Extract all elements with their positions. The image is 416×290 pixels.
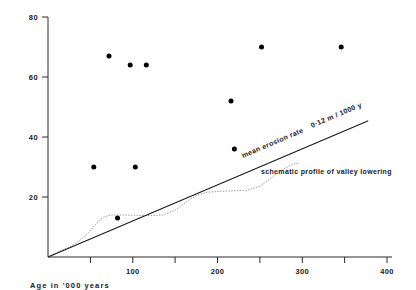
y-tick-label-40: 40 [29,133,38,142]
x-tick-label-200: 200 [211,267,225,276]
data-points-group [91,45,343,221]
valley-lowering-label: schematic profile of valley lowering [261,168,392,176]
data-point [133,165,138,170]
erosion-rate-value-label: 0·12 m / 1000 y [310,101,363,130]
y-tick-label-60: 60 [29,73,38,82]
x-tick-label-400: 400 [380,267,394,276]
data-point [232,147,237,152]
x-axis-ticks: 100 200 300 400 [90,257,393,276]
valley-lowering-profile-line [50,163,299,256]
x-tick-label-300: 300 [295,267,309,276]
data-point [115,216,120,221]
erosion-rate-chart: 80 60 40 20 100 200 300 400 Age in '000 … [0,0,416,290]
mean-erosion-rate-label: mean erosion rate [241,126,305,158]
data-point [144,63,149,68]
x-tick-label-100: 100 [126,267,140,276]
x-axis-title: Age in '000 years [30,281,110,290]
data-point [259,45,264,50]
y-axis-ticks: 80 60 40 20 [29,13,48,202]
mean-erosion-rate-line [48,121,368,257]
y-tick-label-80: 80 [29,13,38,22]
y-tick-label-20: 20 [29,193,38,202]
chart-canvas: 80 60 40 20 100 200 300 400 Age in '000 … [0,0,416,290]
data-point [339,45,344,50]
data-point [91,165,96,170]
data-point [229,99,234,104]
data-point [128,63,133,68]
data-point [107,54,112,59]
